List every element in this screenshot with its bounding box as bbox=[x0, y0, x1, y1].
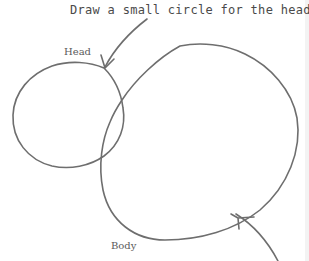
drawing-tutorial-canvas: Draw a small circle for the head. Head B… bbox=[0, 0, 309, 261]
sketch-drawing bbox=[0, 0, 309, 261]
head-label: Head bbox=[64, 46, 91, 57]
body-label: Body bbox=[111, 240, 136, 251]
head-circle bbox=[13, 62, 124, 167]
body-oval bbox=[101, 44, 298, 240]
head-arrow bbox=[105, 19, 147, 67]
